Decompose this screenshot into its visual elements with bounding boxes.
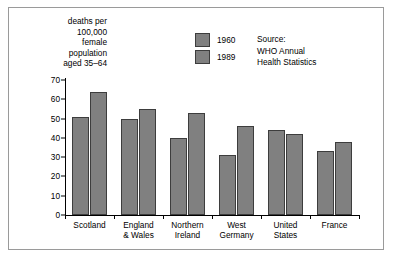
y-tick-mark bbox=[61, 80, 65, 81]
y-tick-mark bbox=[61, 176, 65, 177]
bar-1989-england---wales bbox=[139, 109, 156, 215]
y-tick-mark bbox=[61, 118, 65, 119]
bar-1960-west-germany bbox=[219, 155, 236, 215]
bar-group bbox=[117, 80, 160, 215]
bar-group bbox=[166, 80, 209, 215]
legend-swatch-1989 bbox=[195, 50, 210, 64]
x-category-label: Northern Ireland bbox=[163, 220, 212, 241]
x-category-label: West Germany bbox=[212, 220, 261, 241]
x-tick-mark bbox=[163, 215, 164, 219]
y-tick-mark bbox=[61, 99, 65, 100]
source-note: Source: WHO Annual Health Statistics bbox=[257, 34, 316, 69]
x-category-label: Scotland bbox=[65, 220, 114, 230]
y-tick-mark bbox=[61, 157, 65, 158]
bar-group bbox=[68, 80, 111, 215]
x-category-label: England & Wales bbox=[114, 220, 163, 241]
bar-1960-united-states bbox=[268, 130, 285, 215]
x-tick-mark bbox=[261, 215, 262, 219]
x-tick-mark bbox=[212, 215, 213, 219]
bar-group bbox=[215, 80, 258, 215]
bar-1960-scotland bbox=[72, 117, 89, 215]
x-tick-mark bbox=[310, 215, 311, 219]
bar-group bbox=[264, 80, 307, 215]
chart-figure: deaths per 100,000 female population age… bbox=[8, 7, 384, 250]
bar-1989-scotland bbox=[90, 92, 107, 215]
legend-swatch-1960 bbox=[195, 33, 210, 47]
legend-label-1960: 1960 bbox=[217, 35, 235, 45]
y-tick-mark bbox=[61, 195, 65, 196]
plot-area: 010203040506070 bbox=[65, 80, 359, 215]
y-axis-label: deaths per 100,000 female population age… bbox=[15, 16, 107, 69]
bar-group bbox=[313, 80, 356, 215]
bar-1989-united-states bbox=[286, 134, 303, 215]
x-tick-mark bbox=[114, 215, 115, 219]
x-category-label: United States bbox=[261, 220, 310, 241]
bar-1960-northern-ireland bbox=[170, 138, 187, 215]
bar-1960-france bbox=[317, 151, 334, 215]
bar-1989-northern-ireland bbox=[188, 113, 205, 215]
y-tick-mark bbox=[61, 137, 65, 138]
x-tick-mark bbox=[359, 215, 360, 219]
bar-1989-west-germany bbox=[237, 126, 254, 215]
legend-label-1989: 1989 bbox=[217, 52, 235, 62]
bar-1989-france bbox=[335, 142, 352, 215]
x-tick-mark bbox=[65, 215, 66, 219]
bar-1960-england---wales bbox=[121, 119, 138, 215]
x-category-label: France bbox=[310, 220, 359, 230]
